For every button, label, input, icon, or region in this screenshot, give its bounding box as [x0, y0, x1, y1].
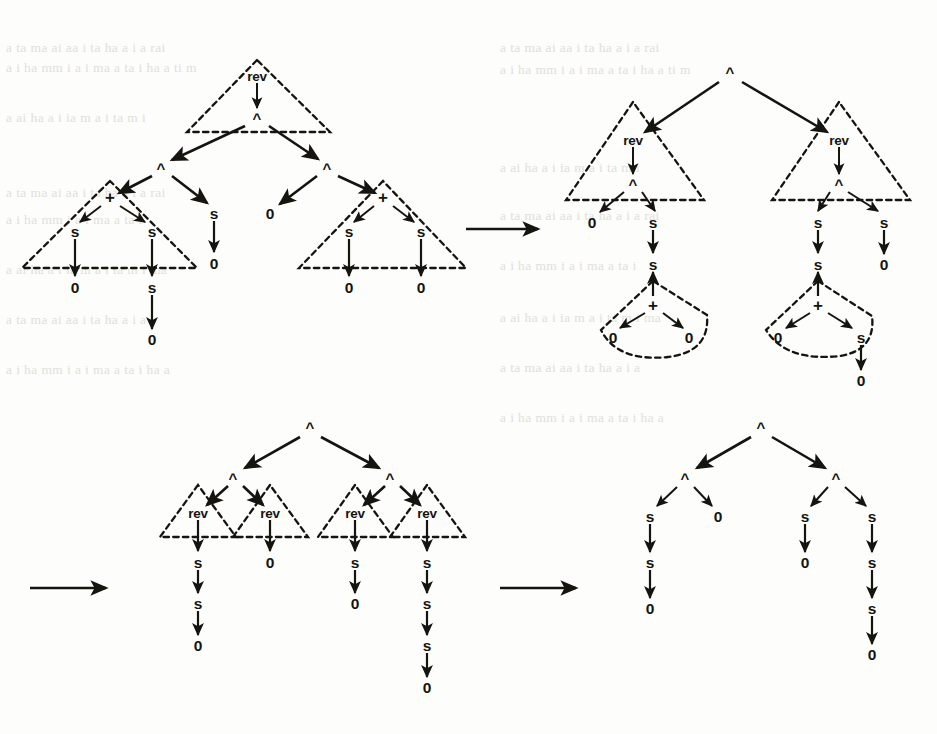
- node-cons: ^: [832, 470, 841, 487]
- edge-cons-left: [245, 437, 300, 468]
- node-zero: 0: [588, 214, 597, 231]
- node-zero: 0: [266, 205, 275, 222]
- node-succ: s: [194, 595, 203, 612]
- edge-cons-left: [645, 82, 719, 132]
- node-rev: rev: [247, 69, 267, 84]
- node-cons: ^: [157, 160, 166, 177]
- edge-consR-to-succB: [845, 487, 866, 506]
- edge-plusL-to-zeroA: [620, 313, 645, 328]
- edge-consL-to-succ: [657, 487, 677, 506]
- node-succ: s: [801, 508, 810, 525]
- edge-cons-right: [772, 437, 825, 468]
- edge-consL-to-zero: [694, 487, 712, 506]
- node-succ: s: [345, 223, 354, 240]
- node-succ: s: [210, 205, 219, 222]
- edge-cons-right: [742, 82, 827, 132]
- node-rev: rev: [188, 506, 208, 521]
- node-succ: s: [194, 554, 203, 571]
- edge-cons-right: [321, 437, 379, 468]
- node-zero: 0: [345, 279, 354, 296]
- node-zero: 0: [880, 256, 889, 273]
- node-cons: ^: [629, 176, 638, 193]
- node-zero: 0: [351, 595, 360, 612]
- edge-plusL-to-sB: [120, 206, 145, 222]
- node-cons: ^: [681, 470, 690, 487]
- node-succ: s: [868, 600, 877, 617]
- edge-consR-to-rev3: [364, 486, 385, 505]
- node-succ: s: [646, 554, 655, 571]
- node-plus: +: [648, 296, 658, 315]
- edge-consR-to-succA: [811, 487, 828, 506]
- node-cons: ^: [835, 176, 844, 193]
- edge-consR-to-zero: [280, 176, 317, 204]
- node-succ: s: [423, 637, 432, 654]
- node-zero: 0: [423, 679, 432, 696]
- node-cons: ^: [726, 64, 735, 81]
- term-graph-canvas: rev ^ ^ ^ + s s 0 s 0 s 0 0 + s s 0 0: [0, 0, 937, 734]
- node-rev: rev: [829, 133, 849, 148]
- node-zero: 0: [685, 329, 694, 346]
- edge-consL-to-plus: [119, 176, 152, 193]
- node-plus: +: [813, 296, 823, 315]
- node-zero: 0: [148, 331, 157, 348]
- node-succ: s: [814, 214, 823, 231]
- edge-plusR-to-zero: [786, 313, 810, 328]
- node-plus: +: [378, 188, 388, 207]
- node-zero: 0: [714, 508, 723, 525]
- node-zero: 0: [774, 329, 783, 346]
- node-succ: s: [646, 508, 655, 525]
- node-succ: s: [148, 223, 157, 240]
- edge-consL-to-zero: [600, 192, 624, 212]
- node-cons: ^: [253, 110, 262, 127]
- node-plus: +: [105, 188, 115, 207]
- node-succ: s: [880, 214, 889, 231]
- edge-consR-to-succB: [848, 192, 878, 211]
- node-zero: 0: [801, 554, 810, 571]
- edge-consR-to-rev4: [400, 486, 420, 505]
- node-succ: s: [857, 329, 866, 346]
- graph-2: ^ rev rev ^ ^ 0 s s + 0 0 s s + 0 s 0 s …: [566, 64, 910, 389]
- node-zero: 0: [266, 554, 275, 571]
- node-succ: s: [351, 554, 360, 571]
- edge-plusL-to-zeroB: [663, 313, 683, 328]
- node-cons: ^: [323, 160, 332, 177]
- node-succ: s: [423, 595, 432, 612]
- node-rev: rev: [260, 506, 280, 521]
- graph-3: ^ ^ ^ rev rev rev rev s s 0 0 s 0 s s s …: [160, 419, 465, 696]
- node-succ: s: [868, 508, 877, 525]
- node-cons: ^: [306, 419, 315, 436]
- node-succ: s: [814, 256, 823, 273]
- node-zero: 0: [857, 372, 866, 389]
- node-rev: rev: [345, 506, 365, 521]
- node-succ: s: [148, 279, 157, 296]
- node-zero: 0: [417, 279, 426, 296]
- node-succ: s: [649, 214, 658, 231]
- node-succ: s: [71, 223, 80, 240]
- node-zero: 0: [210, 255, 219, 272]
- edge-consL-to-s: [172, 176, 207, 203]
- edge-consL-to-succ: [642, 192, 655, 211]
- graph-4: ^ ^ ^ s s 0 0 s 0 s s s 0: [646, 419, 877, 663]
- edge-consL-to-rev1: [207, 486, 228, 505]
- term-graph-rewriting-figure: a ta ma ai aa i ta ha a i a rai a i ha m…: [0, 0, 937, 734]
- node-rev: rev: [623, 133, 643, 148]
- node-succ: s: [868, 554, 877, 571]
- node-zero: 0: [868, 646, 877, 663]
- edge-consL-to-rev2: [243, 486, 263, 505]
- edge-consR-to-plus: [338, 176, 375, 193]
- node-succ: s: [649, 256, 658, 273]
- node-zero: 0: [609, 329, 618, 346]
- edge-plusR-to-succ: [828, 313, 852, 328]
- node-cons: ^: [757, 419, 766, 436]
- node-rev: rev: [417, 506, 437, 521]
- edge-plusR-to-sB: [393, 206, 414, 222]
- node-cons: ^: [229, 470, 238, 487]
- graph-1: rev ^ ^ ^ + s s 0 s 0 s 0 0 + s s 0 0: [22, 60, 466, 348]
- node-cons: ^: [386, 470, 395, 487]
- node-zero: 0: [71, 279, 80, 296]
- node-zero: 0: [646, 600, 655, 617]
- node-succ: s: [417, 223, 426, 240]
- edge-consR-to-succA: [818, 192, 830, 211]
- edge-cons-left: [697, 437, 751, 468]
- node-succ: s: [423, 554, 432, 571]
